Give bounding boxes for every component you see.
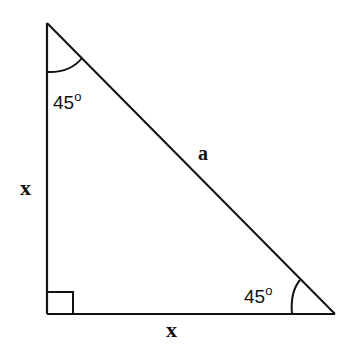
- triangle-diagram: 45o 45o x x a: [0, 0, 354, 354]
- hypotenuse-label: a: [198, 142, 208, 164]
- hypotenuse: [47, 23, 335, 314]
- top-angle-label: 45o: [53, 89, 81, 113]
- right-angle-marker: [47, 292, 73, 314]
- bottom-right-angle-label: 45o: [244, 283, 272, 307]
- horizontal-leg-label: x: [166, 317, 177, 342]
- vertical-leg-label: x: [20, 175, 31, 200]
- bottom-right-angle-arc: [292, 280, 300, 314]
- top-angle-arc: [47, 58, 82, 72]
